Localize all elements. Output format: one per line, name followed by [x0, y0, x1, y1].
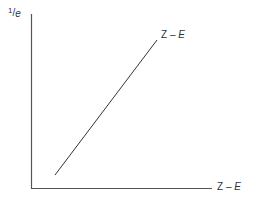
data-line-z-e	[55, 40, 157, 175]
y-axis-label-denominator: e	[15, 8, 21, 19]
series-label-dash: –	[167, 29, 178, 40]
x-axis-label-e: E	[234, 181, 241, 192]
y-axis-label: 1/e	[8, 7, 21, 18]
chart-canvas	[0, 0, 258, 204]
x-axis-label-dash: –	[223, 181, 234, 192]
series-label: Z – E	[161, 29, 185, 40]
y-axis-label-numerator: 1	[8, 6, 12, 15]
x-axis-label: Z – E	[217, 181, 241, 192]
series-label-e: E	[178, 29, 185, 40]
